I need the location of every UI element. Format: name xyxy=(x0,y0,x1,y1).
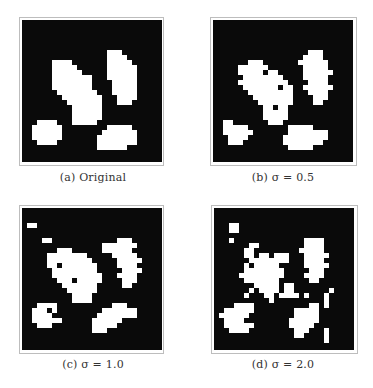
figure-panel-d: (d) σ = 2.0 xyxy=(0,0,373,388)
caption-d: (d) σ = 2.0 xyxy=(190,358,373,371)
binary-image-sigma-2.0 xyxy=(214,208,354,350)
